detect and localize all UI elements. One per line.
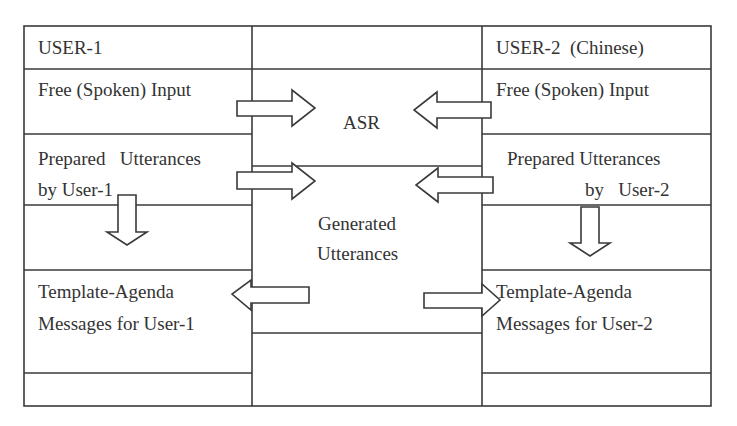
user1-header: USER-1: [38, 32, 102, 63]
user2-prepared-label-line2: by User-2: [585, 174, 670, 205]
user1-prepared-label-line1: Prepared Utterances: [38, 143, 201, 174]
arrow-right-icon: [424, 284, 500, 316]
arrow-left-icon: [232, 280, 309, 310]
user1-free-input-label: Free (Spoken) Input: [38, 74, 191, 105]
asr-label: ASR: [343, 107, 380, 138]
generated-utterances-line1: Generated: [318, 208, 396, 239]
user2-template-label-line1: Template-Agenda: [496, 276, 632, 307]
user1-template-label-line1: Template-Agenda: [38, 276, 174, 307]
user2-free-input-label: Free (Spoken) Input: [496, 74, 649, 105]
user1-template-label-line2: Messages for User-1: [38, 308, 195, 339]
user1-prepared-label-line2: by User-1: [38, 174, 113, 205]
generated-utterances-line2: Utterances: [317, 238, 398, 269]
arrow-left-icon: [414, 92, 491, 128]
arrow-right-icon: [237, 90, 315, 126]
arrow-right-icon: [237, 163, 315, 199]
user2-header: USER-2 (Chinese): [496, 32, 644, 63]
arrow-down-icon: [570, 207, 610, 256]
user2-prepared-label-line1: Prepared Utterances: [507, 143, 661, 174]
user2-template-label-line2: Messages for User-2: [496, 308, 653, 339]
